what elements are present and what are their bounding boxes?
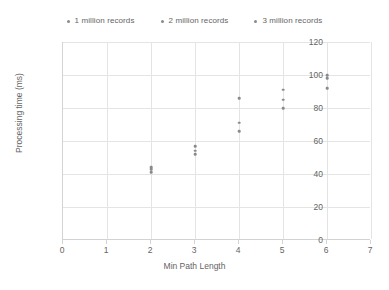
- data-point: [282, 98, 285, 101]
- gridline-horizontal: [63, 108, 370, 109]
- data-point: [326, 74, 329, 77]
- legend-entry[interactable]: 3 million records: [254, 17, 322, 25]
- x-tick-label: 2: [138, 246, 162, 255]
- data-point: [238, 97, 241, 100]
- x-tick-label: 6: [314, 246, 338, 255]
- gridline-vertical: [239, 42, 240, 239]
- data-point: [326, 87, 329, 90]
- x-tick-mark: [238, 240, 239, 244]
- chart-legend: 1 million records2 million records3 mill…: [0, 17, 389, 25]
- data-point: [194, 145, 197, 148]
- legend-label: 1 million records: [75, 17, 135, 25]
- data-point: [150, 166, 153, 169]
- x-tick-mark: [282, 240, 283, 244]
- gridline-vertical: [151, 42, 152, 239]
- legend-label: 2 million records: [169, 17, 229, 25]
- x-tick-label: 4: [226, 246, 250, 255]
- y-tick-label: 60: [293, 137, 323, 146]
- x-tick-mark: [150, 240, 151, 244]
- x-tick-label: 0: [50, 246, 74, 255]
- legend-entry[interactable]: 2 million records: [161, 17, 229, 25]
- data-point: [238, 130, 241, 133]
- x-tick-mark: [194, 240, 195, 244]
- legend-label: 3 million records: [262, 17, 322, 25]
- legend-marker-icon: [161, 20, 164, 23]
- data-point: [194, 153, 197, 156]
- y-tick-label: 0: [293, 236, 323, 245]
- data-point: [326, 77, 329, 80]
- gridline-horizontal: [63, 174, 370, 175]
- x-tick-mark: [62, 240, 63, 244]
- x-tick-mark: [370, 240, 371, 244]
- gridline-vertical: [283, 42, 284, 239]
- data-point: [194, 150, 197, 153]
- plot-area: [62, 42, 370, 240]
- x-tick-mark: [326, 240, 327, 244]
- gridline-vertical: [107, 42, 108, 239]
- x-axis-title: Min Path Length: [0, 261, 389, 271]
- y-tick-label: 120: [293, 38, 323, 47]
- x-tick-label: 7: [358, 246, 382, 255]
- gridline-horizontal: [63, 141, 370, 142]
- scatter-chart: 1 million records2 million records3 mill…: [0, 0, 389, 290]
- gridline-horizontal: [63, 207, 370, 208]
- x-tick-label: 5: [270, 246, 294, 255]
- y-tick-label: 40: [293, 170, 323, 179]
- gridline-vertical: [371, 42, 372, 239]
- data-point: [150, 171, 153, 174]
- data-point: [238, 122, 241, 125]
- gridline-horizontal: [63, 75, 370, 76]
- x-tick-label: 3: [182, 246, 206, 255]
- data-point: [282, 107, 285, 110]
- legend-entry[interactable]: 1 million records: [67, 17, 135, 25]
- gridline-vertical: [195, 42, 196, 239]
- y-tick-label: 100: [293, 71, 323, 80]
- x-tick-mark: [106, 240, 107, 244]
- legend-marker-icon: [67, 20, 70, 23]
- x-tick-label: 1: [94, 246, 118, 255]
- data-point: [282, 89, 285, 92]
- gridline-vertical: [327, 42, 328, 239]
- y-tick-label: 80: [293, 104, 323, 113]
- y-axis-title: Processing time (ms): [14, 33, 24, 193]
- y-tick-label: 20: [293, 203, 323, 212]
- legend-marker-icon: [254, 20, 257, 23]
- gridline-horizontal: [63, 42, 370, 43]
